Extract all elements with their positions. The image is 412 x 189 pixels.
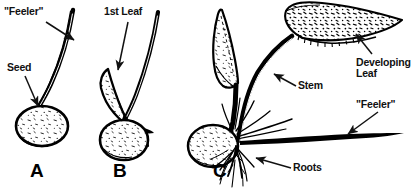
developing-leaf-c <box>285 2 402 40</box>
label-roots: Roots <box>293 162 322 173</box>
label-stem: Stem <box>298 80 323 91</box>
panel-letter-b: B <box>113 160 127 182</box>
label-developing-leaf: Developing Leaf <box>356 57 411 80</box>
main-stem-c <box>238 36 292 141</box>
young-leaf-c <box>213 10 238 88</box>
germination-diagram: "Feeler" Seed 1st Leaf Developing Leaf "… <box>0 0 412 189</box>
feeler-c <box>240 133 404 145</box>
label-feeler-a: "Feeler" <box>4 6 43 17</box>
diagram-artwork <box>0 0 412 189</box>
leader-first-leaf <box>118 22 128 70</box>
leader-seed <box>25 76 38 106</box>
label-feeler-c: "Feeler" <box>356 99 395 110</box>
feeler-edge-a <box>38 11 71 107</box>
seed-body-b <box>100 120 148 160</box>
feeler-shoot-b <box>123 12 158 123</box>
panel-letter-c: C <box>213 160 227 182</box>
seed-body-a <box>16 106 68 146</box>
label-first-leaf: 1st Leaf <box>104 6 142 17</box>
label-seed: Seed <box>7 62 31 73</box>
panel-a-drawing <box>16 10 73 147</box>
panel-letter-a: A <box>30 160 44 182</box>
leader-roots <box>256 158 291 168</box>
leader-stem <box>274 74 296 86</box>
panel-b-drawing <box>100 12 158 160</box>
leader-feeler-c <box>348 112 378 134</box>
